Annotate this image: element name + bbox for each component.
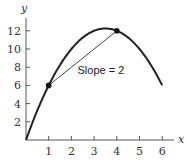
x-tick-label: 4	[113, 145, 120, 158]
secant-line	[49, 31, 117, 86]
y-tick-label: 10	[7, 43, 21, 56]
x-tick-label: 1	[45, 145, 52, 158]
y-tick-label: 6	[14, 79, 21, 92]
y-tick-label: 8	[14, 61, 21, 74]
annotations: Slope = 2	[78, 64, 125, 76]
y-axis-label: y	[20, 2, 28, 15]
y-tick-label: 12	[7, 25, 21, 38]
y-tick-label: 2	[14, 116, 21, 129]
chart: x y 12345624681012 Slope = 2	[0, 0, 187, 162]
x-tick-label: 5	[136, 145, 143, 158]
ticks: 12345624681012	[7, 25, 166, 158]
x-tick-label: 6	[159, 145, 166, 158]
x-axis-label: x	[178, 133, 185, 146]
x-tick-label: 3	[91, 145, 98, 158]
point-marker	[114, 28, 120, 34]
slope-annotation: Slope = 2	[78, 64, 125, 76]
y-tick-label: 4	[14, 98, 21, 111]
x-tick-label: 2	[68, 145, 75, 158]
point-marker	[46, 83, 52, 89]
